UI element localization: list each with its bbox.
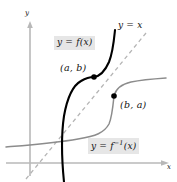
inverse-label-exponent: −1 (114, 139, 124, 147)
inverse-label-prefix: y = f (91, 141, 114, 151)
point-marker-b-a (111, 93, 117, 99)
x-axis-label: x (167, 164, 171, 171)
y-axis-label: y (25, 10, 29, 17)
identity-line-label: y = x (118, 21, 142, 30)
point-label-a-b: (a, b) (60, 63, 86, 73)
inverse-label-suffix: (x) (124, 141, 137, 151)
y-axis (27, 21, 33, 176)
diagram-canvas (0, 0, 177, 182)
inverse-function-label: y = f−1(x) (88, 138, 139, 154)
function-label: y = f(x) (54, 36, 95, 50)
function-curve (62, 30, 115, 182)
inverse-function-diagram: y x y = f(x) y = x (a, b) (b, a) y = f−1… (0, 0, 177, 182)
point-label-b-a: (b, a) (120, 100, 146, 110)
point-marker-a-b (91, 74, 97, 80)
